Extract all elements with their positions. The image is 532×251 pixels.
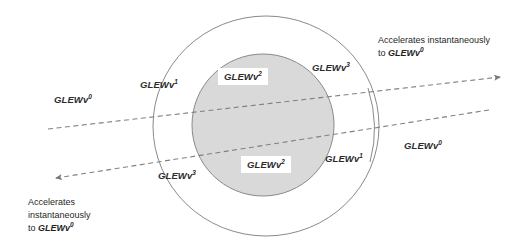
shell-label-exponent: 0 [438, 139, 442, 146]
right-partial-arc [368, 88, 375, 162]
shell-label-exponent: 2 [258, 70, 262, 77]
annotation-line: to GLEWv0 [378, 47, 490, 60]
annotation-line: instantaneously [28, 209, 91, 222]
annotation-emphasis-exponent: 0 [70, 221, 74, 228]
shell-label-exponent: 3 [192, 169, 196, 176]
shell-label-text: GLEWv [54, 94, 88, 105]
annotation-line: Accelerates instantaneously [378, 34, 490, 47]
shell-label-exponent: 1 [359, 152, 363, 159]
annotation-emphasis-text: GLEWv [38, 223, 70, 233]
shell-label-lower-inner-edge: GLEWv3 [158, 170, 196, 181]
shell-label-exponent: 0 [88, 93, 92, 100]
annotation-note-top-right: Accelerates instantaneouslyto GLEWv0 [378, 34, 490, 60]
shell-label-text: GLEWv [158, 170, 192, 181]
diagram-canvas: GLEWv0GLEWv1GLEWv2GLEWv3GLEWv2GLEWv3GLEW… [0, 0, 532, 251]
shell-label-text: GLEWv [325, 153, 359, 164]
annotation-line-text: instantaneously [28, 210, 91, 220]
shell-label-upper-inner-edge: GLEWv3 [312, 62, 350, 73]
annotation-note-bottom-left: Acceleratesinstantaneouslyto GLEWv0 [28, 196, 91, 235]
shell-label-exponent: 3 [346, 61, 350, 68]
shell-label-exponent: 1 [174, 78, 178, 85]
annotation-line-emphasis: GLEWv0 [38, 223, 74, 233]
annotation-emphasis-exponent: 0 [420, 46, 424, 53]
shell-label-text: GLEWv [247, 159, 281, 170]
shell-label-lower-ring: GLEWv1 [325, 153, 363, 164]
shell-label-exponent: 2 [281, 158, 285, 165]
shell-label-text: GLEWv [312, 62, 346, 73]
annotation-line-text: Accelerates [28, 197, 75, 207]
annotation-line: to GLEWv0 [28, 222, 91, 235]
shell-label-lower-core: GLEWv2 [241, 156, 291, 173]
shell-label-text: GLEWv [224, 71, 258, 82]
annotation-line: Accelerates [28, 196, 91, 209]
shell-label-left-outer: GLEWv0 [54, 94, 92, 105]
annotation-line-text: to [378, 48, 388, 58]
annotation-line-text: to [28, 223, 38, 233]
shell-label-text: GLEWv [140, 79, 174, 90]
shell-label-text: GLEWv [404, 140, 438, 151]
shell-label-right-outer: GLEWv0 [404, 140, 442, 151]
shell-label-upper-core: GLEWv2 [218, 68, 268, 85]
annotation-line-emphasis: GLEWv0 [388, 48, 424, 58]
annotation-emphasis-text: GLEWv [388, 48, 420, 58]
shell-label-upper-ring: GLEWv1 [140, 79, 178, 90]
annotation-line-text: Accelerates instantaneously [378, 35, 490, 45]
